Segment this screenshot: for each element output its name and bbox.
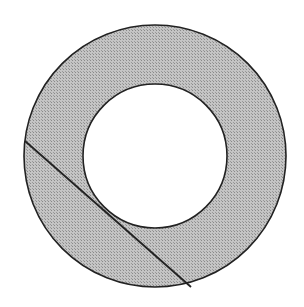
inner-circle	[83, 84, 227, 228]
annulus-diagram	[0, 0, 304, 307]
